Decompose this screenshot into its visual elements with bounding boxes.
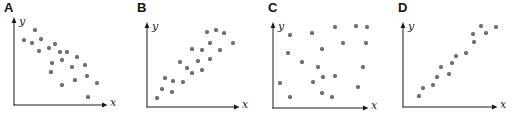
- data-point: [170, 90, 174, 94]
- data-point: [356, 85, 360, 89]
- scatter-plots-figure: A y x B y x C y x D y x: [0, 0, 519, 117]
- data-point: [155, 96, 159, 100]
- data-point: [37, 49, 41, 53]
- x-axis-label: x: [110, 97, 116, 108]
- axes: [130, 0, 260, 117]
- y-axis-label: y: [278, 21, 284, 32]
- data-point: [472, 40, 476, 44]
- data-point: [190, 47, 194, 51]
- x-axis-label: x: [242, 99, 248, 110]
- x-axis-label: x: [371, 100, 377, 111]
- scatter-panel: C y x: [260, 0, 390, 117]
- data-point: [310, 31, 314, 35]
- data-point: [354, 24, 358, 28]
- data-point: [321, 75, 325, 79]
- data-point: [320, 91, 324, 95]
- data-point: [214, 28, 218, 32]
- data-point: [70, 65, 74, 69]
- data-point: [300, 60, 304, 64]
- data-point: [471, 32, 475, 36]
- data-point: [53, 42, 57, 46]
- x-axis-label: x: [500, 99, 506, 110]
- data-point: [60, 83, 64, 87]
- scatter-panel: B y x: [130, 0, 260, 117]
- data-point: [417, 94, 421, 98]
- data-point: [479, 24, 483, 28]
- data-point: [30, 41, 34, 45]
- data-point: [190, 71, 194, 75]
- data-point: [278, 81, 282, 85]
- data-point: [47, 46, 51, 50]
- data-point: [484, 31, 488, 35]
- scatter-panel: D y x: [390, 0, 519, 117]
- y-axis-label: y: [19, 16, 25, 27]
- data-point: [163, 76, 167, 80]
- data-point: [39, 37, 43, 41]
- y-axis-label: y: [152, 21, 158, 32]
- data-point: [60, 58, 64, 62]
- data-point: [160, 87, 164, 91]
- data-point: [185, 66, 189, 70]
- data-point: [218, 48, 222, 52]
- data-point: [316, 65, 320, 69]
- y-axis-label: y: [408, 21, 414, 32]
- data-point: [431, 83, 435, 87]
- data-point: [341, 41, 345, 45]
- scatter-panel: A y x: [0, 0, 130, 117]
- data-point: [447, 72, 451, 76]
- data-point: [288, 33, 292, 37]
- data-point: [288, 95, 292, 99]
- data-point: [95, 81, 99, 85]
